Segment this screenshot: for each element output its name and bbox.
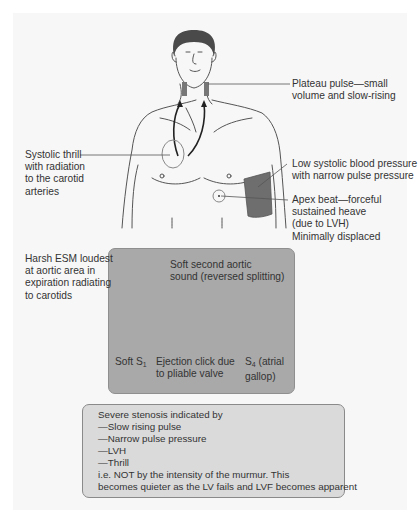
label-line: Soft second aortic [170, 259, 284, 271]
label-line: volume and slow-rising [292, 90, 396, 102]
soft-s1-label: Soft S1 [115, 356, 147, 371]
systolic-thrill-label: Systolic thrill with radiation to the ca… [25, 149, 85, 198]
label-line: with radiation [25, 161, 85, 173]
label-line: arteries [25, 186, 85, 198]
thrill-circle [162, 140, 184, 168]
label-line: Minimally displaced [292, 231, 381, 243]
severe-line: i.e. NOT by the intensity of the murmur.… [98, 469, 289, 481]
label-line: at aortic area in [25, 265, 113, 277]
label-line: sound (reversed splitting) [170, 271, 284, 283]
label-line: Ejection click due [156, 356, 235, 368]
severe-line: —LVH [98, 445, 126, 457]
severe-line: —Thrill [98, 457, 129, 469]
apex-beat-label: Apex beat—forceful sustained heave (due … [292, 194, 381, 243]
label-text: (atrial [256, 356, 284, 367]
label-text: S [245, 356, 252, 367]
label-line: (due to LVH) [292, 218, 381, 230]
label-line: Apex beat—forceful [292, 194, 381, 206]
plateau-pulse-label: Plateau pulse—small volume and slow-risi… [292, 78, 396, 102]
hair [173, 30, 215, 56]
severe-line: becomes quieter as the LV fails and LVF … [98, 481, 357, 493]
subscript: 1 [143, 361, 147, 368]
severe-line: —Narrow pulse pressure [98, 433, 206, 445]
severe-line: Severe stenosis indicated by [98, 409, 223, 421]
label-text: Soft S [115, 356, 143, 367]
label-line: to carotids [25, 290, 113, 302]
label-line: to the carotid [25, 173, 85, 185]
label-line: expiration radiating [25, 277, 113, 289]
label-line: gallop) [245, 371, 284, 383]
s4-label: S4 (atrial gallop) [245, 356, 284, 383]
label-line: Low systolic blood pressure [292, 158, 417, 170]
label-line: Systolic thrill [25, 149, 85, 161]
ejection-click-label: Ejection click due to pliable valve [156, 356, 235, 380]
harsh-esm-label: Harsh ESM loudest at aortic area in expi… [25, 253, 113, 302]
label-line: Harsh ESM loudest [25, 253, 113, 265]
label-line: to pliable valve [156, 368, 235, 380]
soft-a2-label: Soft second aortic sound (reversed split… [170, 259, 284, 283]
severe-line: —Slow rising pulse [98, 421, 181, 433]
label-line: with narrow pulse pressure [292, 170, 417, 182]
label-line: Plateau pulse—small [292, 78, 396, 90]
torso-outline [122, 100, 196, 228]
low-bp-label: Low systolic blood pressure with narrow … [292, 158, 417, 182]
label-line: sustained heave [292, 206, 381, 218]
